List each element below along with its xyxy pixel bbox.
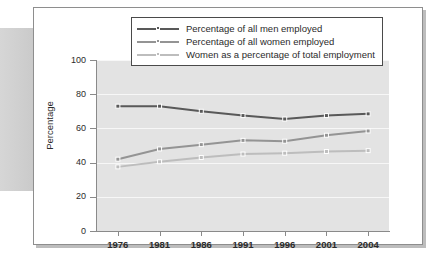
chart-legend: Percentage of all men employedPercentage… <box>131 17 383 66</box>
decorative-gray-slab <box>0 28 36 191</box>
legend-label: Percentage of all men employed <box>186 22 322 35</box>
legend-swatch-icon <box>137 24 179 33</box>
data-point-marker <box>241 152 245 156</box>
data-point-marker <box>116 104 120 108</box>
data-point-marker <box>324 114 328 118</box>
data-point-marker <box>366 129 370 133</box>
data-point-marker <box>324 149 328 153</box>
legend-label: Women as a percentage of total employmen… <box>186 48 375 61</box>
data-point-marker <box>283 139 287 143</box>
data-point-marker <box>283 151 287 155</box>
data-point-marker <box>241 114 245 118</box>
data-point-marker <box>158 104 162 108</box>
data-point-marker <box>158 147 162 151</box>
legend-swatch-icon <box>137 37 179 46</box>
legend-item: Percentage of all women employed <box>137 35 375 48</box>
data-point-marker <box>116 165 120 169</box>
data-point-marker <box>324 133 328 137</box>
data-point-marker <box>199 109 203 113</box>
plot-wrap: 020406080100 197619811986199119962001200… <box>34 8 424 246</box>
data-point-marker <box>366 149 370 153</box>
data-point-marker <box>241 138 245 142</box>
legend-label: Percentage of all women employed <box>186 35 334 48</box>
legend-item: Women as a percentage of total employmen… <box>137 48 375 61</box>
data-point-marker <box>199 143 203 147</box>
data-point-marker <box>283 117 287 121</box>
data-point-marker <box>158 160 162 164</box>
legend-swatch-icon <box>137 50 179 59</box>
figure-card: 020406080100 197619811986199119962001200… <box>33 7 423 245</box>
data-point-marker <box>366 112 370 116</box>
data-point-marker <box>199 155 203 159</box>
legend-item: Percentage of all men employed <box>137 22 375 35</box>
data-point-marker <box>116 157 120 161</box>
